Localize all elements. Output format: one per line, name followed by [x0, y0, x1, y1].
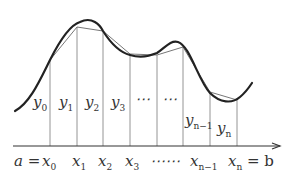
- ordinate-label: y1: [58, 93, 73, 113]
- function-curve: [15, 20, 252, 111]
- axis-tick-labels: a =x0x1x2x3⋯⋯xn−1xn = b: [14, 152, 274, 172]
- axis-tick-label: x2: [98, 152, 112, 172]
- ordinate-label: ⋯: [162, 90, 177, 108]
- ordinate-label: y0: [32, 93, 47, 113]
- ordinate-label: ⋯: [135, 90, 150, 108]
- axis-tick-label: a =: [14, 152, 40, 170]
- trapezoid-rule-diagram: y0y1y2y3⋯⋯yn−1yn a =x0x1x2x3⋯⋯xn−1xn = b: [0, 0, 290, 179]
- ordinate-label: yn−1: [184, 111, 213, 131]
- axis-tick-label: ⋯⋯: [150, 152, 180, 170]
- ordinate-label: y3: [110, 93, 125, 113]
- axis-tick-label: xn = b: [228, 152, 274, 172]
- axis-tick-label: x1: [72, 152, 86, 172]
- ordinate-labels: y0y1y2y3⋯⋯yn−1yn: [32, 90, 231, 139]
- x-axis: [13, 143, 280, 149]
- axis-tick-label: x3: [125, 152, 139, 172]
- axis-tick-label: x0: [42, 152, 56, 172]
- ordinate-label: y2: [84, 93, 99, 113]
- axis-tick-label: xn−1: [190, 152, 218, 172]
- ordinate-label: yn: [216, 119, 231, 139]
